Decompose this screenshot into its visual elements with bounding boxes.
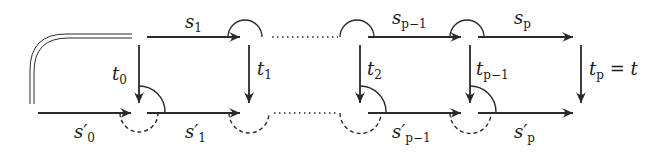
label-spprime: s′p — [514, 121, 535, 145]
label-s1prime: s′1 — [185, 121, 206, 145]
label-tp: tp = t — [589, 58, 638, 82]
dashed-arc-1 — [229, 113, 269, 133]
label-t0: t0 — [112, 63, 127, 87]
arc-top-1 — [228, 20, 262, 37]
label-sp: sp — [514, 7, 531, 31]
arc-quarter-2 — [360, 86, 386, 112]
label-t1: t1 — [257, 58, 272, 82]
arc-top-2 — [340, 20, 374, 37]
arc-quarter-p-1 — [470, 86, 496, 112]
label-sp-1: sp−1 — [392, 7, 427, 31]
dashed-arc-3 — [450, 113, 491, 134]
arc-top-3 — [450, 20, 484, 37]
arc-quarter-0 — [139, 86, 165, 112]
label-sp-1prime: s′p−1 — [392, 121, 431, 145]
dashed-arc-0 — [120, 113, 158, 132]
dashed-arc-2 — [340, 113, 381, 134]
label-t2: t2 — [367, 58, 382, 82]
label-tp-1: tp−1 — [476, 58, 509, 82]
diagram-canvas: s1 sp−1 sp t0 t1 t2 tp−1 tp = t s′0 s′1 … — [0, 0, 669, 156]
label-s0prime: s′0 — [74, 121, 95, 145]
label-s1: s1 — [185, 11, 202, 35]
